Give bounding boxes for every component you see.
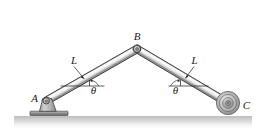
ground-group [14,116,252,131]
length-left-leader [74,67,84,79]
bar-bc-body [135,46,230,107]
support-a-base-plate [30,111,68,115]
joint-b-pin [133,45,140,52]
mechanics-figure: θ θ L L A B C [0,0,265,138]
joint-b-inner [136,48,139,51]
figure-canvas: θ θ L L A B C [0,0,265,138]
label-point-a: A [30,92,38,104]
bar-bc-shadow [138,53,224,104]
label-point-c: C [243,99,251,111]
label-point-b: B [134,30,141,42]
length-left-label: L [70,54,77,66]
ground-shadow [14,116,252,130]
angle-left-label: θ [91,84,97,96]
roller-c-axle [227,102,229,104]
angle-right-label: θ [173,84,179,96]
length-right-label: L [190,54,197,66]
bar-bc-highlight [141,49,227,100]
support-a-pin-hole [45,100,48,103]
bar-ab [41,44,143,107]
roller-c [216,91,239,114]
